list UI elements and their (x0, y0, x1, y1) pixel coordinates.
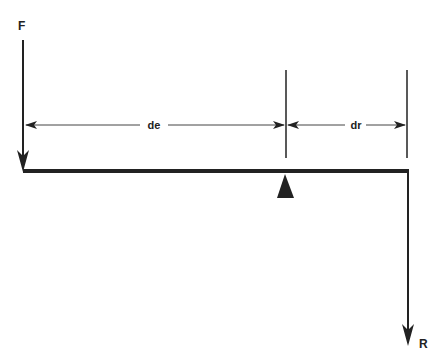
lever-diagram: F de dr R (0, 0, 444, 361)
effort-distance-label: de (148, 119, 161, 131)
resistance-distance-label: dr (351, 119, 363, 131)
force-arrow (17, 40, 29, 172)
resistance-label: R (419, 337, 428, 351)
fulcrum-triangle (277, 174, 294, 198)
force-label: F (18, 19, 25, 33)
lever-beam (23, 169, 409, 173)
resistance-arrow (402, 171, 414, 346)
